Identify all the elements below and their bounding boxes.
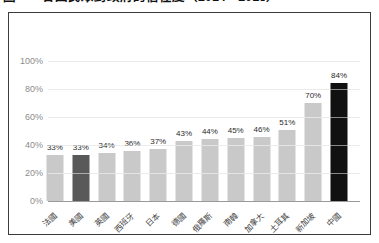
bar: [72, 155, 89, 201]
x-axis-line: [48, 201, 360, 202]
bar: [279, 130, 296, 201]
y-axis-tick: 80%: [9, 84, 43, 94]
y-axis-tick: 20%: [9, 168, 43, 178]
x-axis-label: 日本: [143, 210, 162, 229]
bar: [98, 153, 115, 201]
x-axis-label: 加拿大: [241, 210, 266, 235]
gridline-overlay: [48, 145, 360, 146]
bar: [227, 138, 244, 201]
x-axis-label: 中國: [324, 210, 343, 229]
bar: [124, 151, 141, 201]
bar: [46, 155, 63, 201]
x-axis-label: 南韓: [221, 210, 240, 229]
x-axis-label: 新加坡: [292, 210, 317, 235]
bar: [150, 149, 167, 201]
bar: [201, 139, 218, 201]
bar-value-label: 70%: [294, 91, 332, 100]
y-axis-tick: 40%: [9, 140, 43, 150]
chart-frame: 33%法國33%美國34%英國36%西班牙37%日本43%德國44%俄羅斯45%…: [8, 12, 371, 235]
bar-value-label: 84%: [320, 71, 358, 80]
x-axis-label: 美國: [66, 210, 85, 229]
y-axis-tick: 100%: [9, 56, 43, 66]
gridline-overlay: [48, 61, 360, 62]
bar: [331, 83, 348, 201]
x-axis-label: 俄羅斯: [189, 210, 214, 235]
bar: [176, 141, 193, 201]
x-axis-label: 英國: [91, 210, 110, 229]
gridline-overlay: [48, 89, 360, 90]
plot-area: 33%法國33%美國34%英國36%西班牙37%日本43%德國44%俄羅斯45%…: [9, 13, 370, 234]
gridline-overlay: [48, 117, 360, 118]
page: 圖一 各國民眾對政府的信任度（2014—2015） 33%法國33%美國34%英…: [0, 0, 379, 243]
y-axis-tick: 60%: [9, 112, 43, 122]
x-axis-label: 法國: [40, 210, 59, 229]
x-axis-label: 土耳其: [267, 210, 292, 235]
x-axis-label: 西班牙: [112, 210, 137, 235]
bar-value-label: 51%: [268, 118, 306, 127]
gridline-overlay: [48, 173, 360, 174]
bar: [253, 137, 270, 201]
chart-title: 圖一 各國民眾對政府的信任度（2014—2015）: [3, 0, 279, 5]
y-axis-tick: 0%: [9, 196, 43, 206]
x-axis-label: 德國: [169, 210, 188, 229]
